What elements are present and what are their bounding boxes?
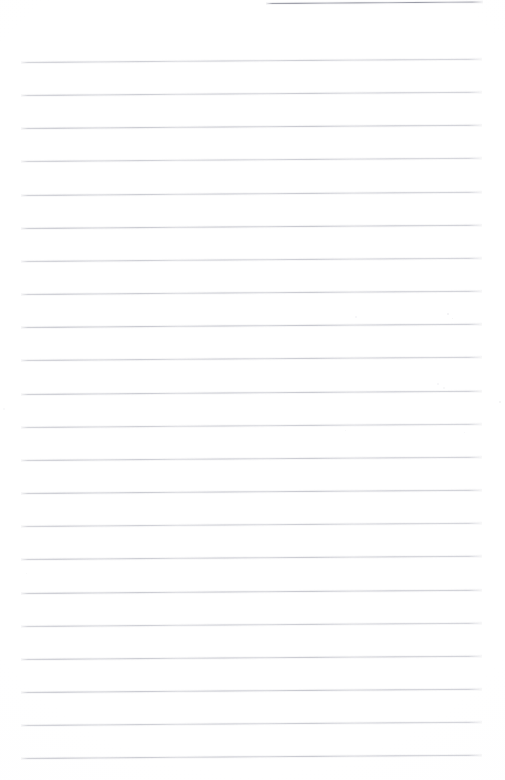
scan-speck — [3, 408, 5, 410]
writing-area — [21, 62, 482, 762]
scan-speck — [499, 401, 501, 403]
rule-line-top-fragment — [266, 1, 483, 4]
scanned-page — [0, 0, 505, 780]
